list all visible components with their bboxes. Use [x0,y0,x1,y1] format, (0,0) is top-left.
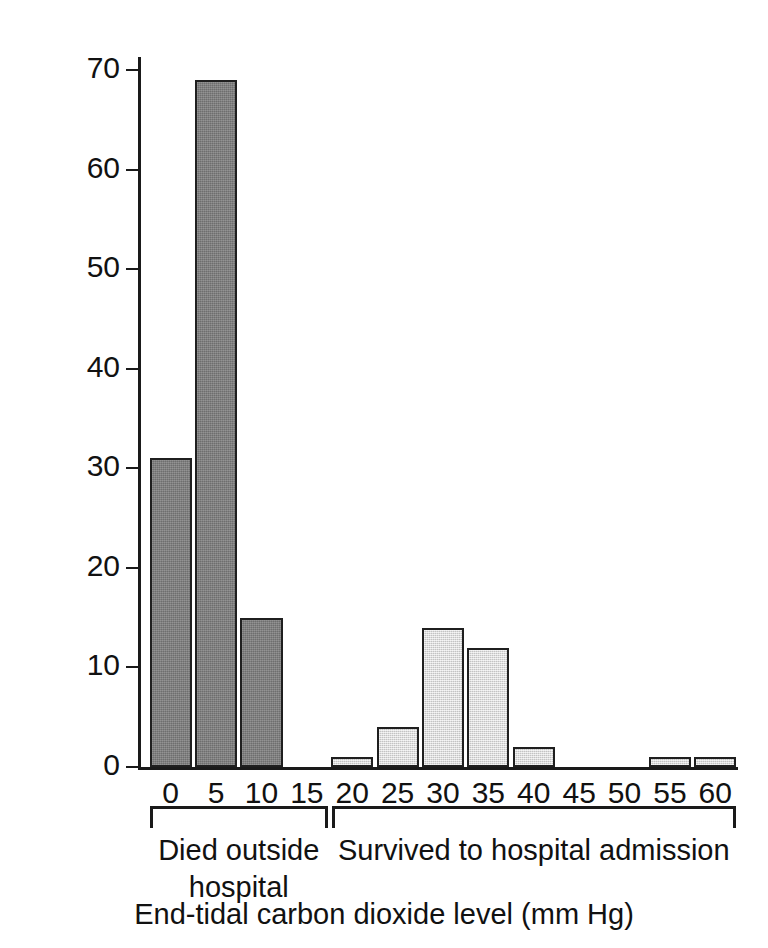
y-axis-tick-labels: 010203040506070 [28,50,120,770]
y-axis-tick-label: 0 [103,750,120,780]
bar-40 [513,747,555,767]
y-axis-tick-10 [126,666,138,668]
y-axis-tick-label: 10 [87,650,120,680]
bar-20 [331,757,373,767]
y-axis-tick-label: 60 [87,153,120,183]
x-axis-tick-label: 0 [148,776,193,810]
x-axis-tick-label: 15 [284,776,329,810]
x-axis-tick-label: 10 [239,776,284,810]
group-bracket-died [150,806,328,828]
group-label-survived: Survived to hospital admission [302,832,766,869]
bar-35 [467,648,509,767]
x-axis-tick-label: 5 [193,776,238,810]
bar-10 [240,618,282,767]
x-axis-tick-label: 50 [602,776,647,810]
y-axis-tick-label: 40 [87,352,120,382]
x-axis-tick-label: 30 [420,776,465,810]
x-axis-tick-label: 25 [375,776,420,810]
x-axis-tick-label: 60 [693,776,738,810]
x-axis-tick-label: 55 [647,776,692,810]
bar-5 [195,80,237,767]
y-axis-line [138,57,141,770]
bar-60 [694,757,736,767]
chart-figure: 010203040506070 051015202530354045505560… [0,0,768,948]
x-axis-tick-label: 40 [511,776,556,810]
bar-55 [649,757,691,767]
x-axis-tick-label: 20 [330,776,375,810]
y-axis-tick-20 [126,567,138,569]
plot-area: 010203040506070 051015202530354045505560 [138,50,738,770]
y-axis-tick-0 [126,766,138,768]
group-brackets: Died outsidehospitalSurvived to hospital… [138,806,738,832]
y-axis-tick-50 [126,268,138,270]
y-axis-tick-label: 70 [87,53,120,83]
y-axis-tick-30 [126,467,138,469]
y-axis-tick-40 [126,368,138,370]
bar-30 [422,628,464,767]
bar-0 [150,458,192,767]
y-axis-tick-label: 20 [87,551,120,581]
bar-series [148,50,738,770]
group-bracket-survived [332,806,736,828]
y-axis-tick-70 [126,69,138,71]
x-axis-title: End-tidal carbon dioxide level (mm Hg) [0,898,768,930]
y-axis-tick-label: 50 [87,252,120,282]
bar-25 [377,727,419,767]
x-axis-tick-label: 45 [556,776,601,810]
x-axis-tick-label: 35 [466,776,511,810]
y-axis-tick-label: 30 [87,451,120,481]
y-axis-tick-60 [126,169,138,171]
